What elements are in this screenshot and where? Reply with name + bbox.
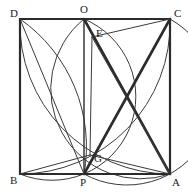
segment-DP bbox=[20, 19, 84, 174]
figure-canvas: DOCEGBPA bbox=[0, 0, 188, 192]
point-label-B: B bbox=[10, 174, 17, 186]
arc-O-to-B-center-D bbox=[20, 19, 136, 180]
geometry-figure: DOCEGBPA bbox=[0, 0, 188, 192]
point-label-C: C bbox=[174, 7, 181, 19]
segment-EG bbox=[90, 37, 92, 155]
segment-EA bbox=[92, 37, 170, 174]
arc-O-to-A-center-C bbox=[51, 19, 170, 179]
point-label-D: D bbox=[10, 7, 18, 19]
point-label-A: A bbox=[172, 176, 180, 188]
segment-EC bbox=[92, 19, 170, 37]
segment-BG bbox=[20, 155, 90, 174]
segment-GA bbox=[90, 155, 170, 174]
point-label-E: E bbox=[96, 27, 103, 39]
point-label-O: O bbox=[80, 3, 88, 15]
point-label-P: P bbox=[80, 176, 86, 188]
point-label-G: G bbox=[94, 152, 102, 164]
